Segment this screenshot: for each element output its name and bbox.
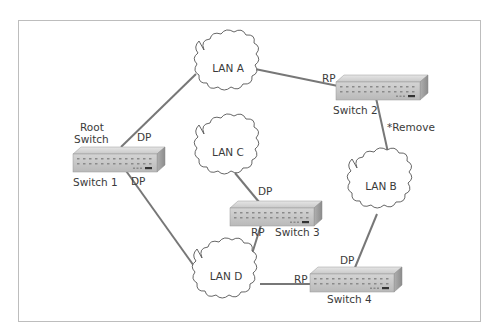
switch-1: Switch 1	[73, 147, 165, 188]
switch-2-label: Switch 2	[333, 104, 378, 116]
link-lanB-sw4	[354, 214, 377, 270]
port-label-sw1-lanA: DP	[137, 131, 151, 143]
switch-icon	[73, 147, 165, 172]
lan-b-cloud: LAN B	[347, 148, 412, 208]
link-sw1-lanA	[121, 74, 196, 147]
root-label-line2: Switch	[74, 133, 109, 145]
port-label-sw2-lanA: RP	[322, 72, 336, 84]
lan-a-cloud: LAN A	[194, 30, 259, 90]
port-label-sw3-lanC: DP	[258, 185, 272, 197]
link-lanC-sw3	[235, 173, 259, 202]
diagram-canvas: LAN A LAN C LAN D LAN B Switch 1 Switch …	[0, 0, 499, 335]
lan-b-label: LAN B	[365, 180, 397, 192]
switch-1-label: Switch 1	[73, 176, 118, 188]
remove-annotation: *Remove	[387, 121, 435, 133]
switch-icon	[230, 201, 322, 226]
switch-4-label: Switch 4	[327, 293, 372, 305]
lan-a-label: LAN A	[212, 62, 244, 74]
lan-c-label: LAN C	[212, 146, 244, 158]
switch-icon	[310, 267, 402, 292]
switch-4: Switch 4	[310, 267, 402, 305]
switch-3: Switch 3	[230, 201, 322, 238]
port-label-sw1-lanD: DP	[131, 175, 145, 187]
port-label-sw3-lanD: RP	[251, 226, 265, 238]
port-label-sw4-lanB: DP	[340, 254, 354, 266]
lan-d-cloud: LAN D	[192, 238, 257, 298]
switch-icon	[336, 75, 428, 100]
root-label-line1: Root	[80, 121, 104, 133]
switch-3-label: Switch 3	[275, 226, 320, 238]
lan-d-label: LAN D	[210, 270, 243, 282]
port-label-sw4-lanD: RP	[294, 273, 308, 285]
lan-c-cloud: LAN C	[194, 114, 259, 174]
network-diagram: LAN A LAN C LAN D LAN B Switch 1 Switch …	[0, 0, 499, 335]
switch-2: Switch 2	[333, 75, 428, 116]
